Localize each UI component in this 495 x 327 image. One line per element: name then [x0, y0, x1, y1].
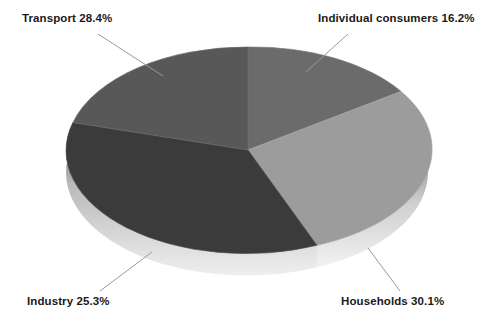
pie-label-industry: Industry 25.3% — [27, 295, 110, 308]
pie-label-households: Households 30.1% — [341, 295, 444, 308]
leader-line-transport — [98, 34, 163, 76]
pie-chart-graphic — [0, 0, 495, 327]
pie-label-individual-consumers: Individual consumers 16.2% — [318, 12, 475, 25]
leader-line-households — [368, 248, 400, 291]
leader-line-industry — [100, 252, 152, 291]
pie-chart: Transport 28.4% Individual consumers 16.… — [0, 0, 495, 327]
pie-label-transport: Transport 28.4% — [22, 12, 112, 25]
